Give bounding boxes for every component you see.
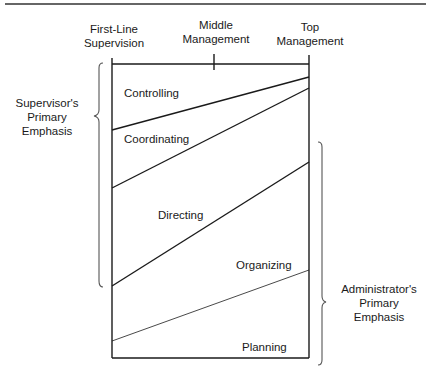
level-label-line: Supervision [84,36,144,50]
brace-label-line: Emphasis [341,310,417,324]
boundary-organizing-planning [112,270,309,341]
level-label-line: Management [182,32,249,46]
band-label-organizing: Organizing [236,258,292,272]
band-label-directing: Directing [158,208,203,222]
level-label-line: Management [276,34,343,48]
left-brace [94,63,103,287]
level-label-line: Top [276,20,343,34]
band-label-coordinating: Coordinating [124,132,189,146]
brace-label-line: Primary [16,110,79,124]
level-label-first-line: First-Line Supervision [84,22,144,50]
level-label-middle: Middle Management [182,18,249,46]
administrator-emphasis-label: Administrator's Primary Emphasis [341,282,417,324]
supervisor-emphasis-label: Supervisor's Primary Emphasis [16,96,79,138]
right-brace [318,142,326,365]
brace-label-line: Primary [341,296,417,310]
band-label-planning: Planning [242,340,287,354]
level-label-line: First-Line [84,22,144,36]
band-label-controlling: Controlling [124,86,179,100]
brace-label-line: Supervisor's [16,96,79,110]
brace-label-line: Emphasis [16,124,79,138]
level-label-top: Top Management [276,20,343,48]
level-label-line: Middle [182,18,249,32]
brace-label-line: Administrator's [341,282,417,296]
